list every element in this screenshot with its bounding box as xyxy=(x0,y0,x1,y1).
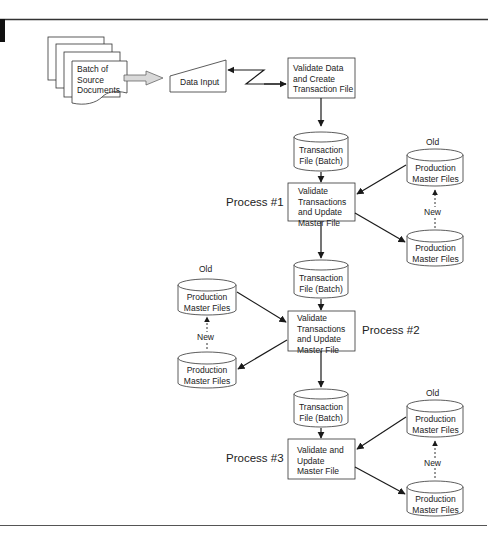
process-2-box-label: Validate Transactions and Update Master … xyxy=(297,313,345,355)
process-1-box-label: Validate Transactions and Update Master … xyxy=(298,186,346,228)
old-label-1: Old xyxy=(426,137,439,147)
process-1-label: Process #1 xyxy=(226,196,284,208)
data-input-label: Data Input xyxy=(180,77,219,87)
new-label-1: New xyxy=(424,207,441,217)
master-old-2-label: Production Master Files xyxy=(178,292,236,313)
master-new-1-label: Production Master Files xyxy=(407,243,464,264)
transaction-file-2-label: Transaction File (Batch) xyxy=(294,273,348,294)
process-2-label: Process #2 xyxy=(362,324,420,336)
new-label-2: New xyxy=(197,332,214,342)
master-old-1-label: Production Master Files xyxy=(407,163,464,184)
transaction-file-1-label: Transaction File (Batch) xyxy=(294,145,348,166)
old-label-3: Old xyxy=(426,388,439,398)
transaction-file-3-label: Transaction File (Batch) xyxy=(294,402,348,423)
new-label-3: New xyxy=(424,458,441,468)
batch-docs-label: Batch of Source Documents xyxy=(77,64,120,96)
data-link-line xyxy=(228,70,286,84)
process-3-label: Process #3 xyxy=(226,452,284,464)
process-3-box-label: Validate and Update Master File xyxy=(297,445,344,477)
master-new-2-label: Production Master Files xyxy=(178,365,236,386)
validate-create-label: Validate Data and Create Transaction Fil… xyxy=(293,63,353,95)
flow-arrow-icon xyxy=(124,71,163,85)
master-new-3-label: Production Master Files xyxy=(407,494,464,515)
master-old-3-label: Production Master Files xyxy=(407,414,464,435)
left-bar xyxy=(0,19,5,42)
data-input-shape xyxy=(170,60,226,92)
old-label-2: Old xyxy=(199,264,212,274)
